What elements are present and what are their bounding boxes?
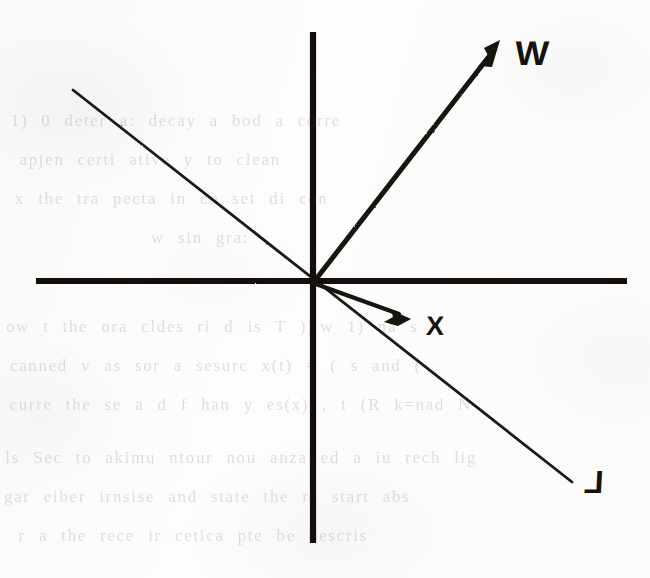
line-l-label: L <box>583 466 604 498</box>
vector-x-label: X <box>426 313 445 340</box>
vector-w-label: W <box>514 36 549 70</box>
figure-canvas: 1) 0 deter a: decay a bod a corre apjen … <box>0 0 650 578</box>
vector-x-shaft <box>313 283 399 314</box>
vector-diagram-drawing <box>0 0 650 578</box>
vector-w-shaft <box>313 50 494 283</box>
